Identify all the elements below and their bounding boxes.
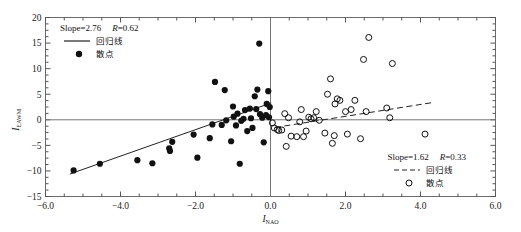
legend-stats-line: Slope=1.62 R=0.33 xyxy=(388,152,467,162)
filled-scatter-point xyxy=(169,139,175,145)
filled-scatter-point xyxy=(97,161,103,167)
filled-scatter-point xyxy=(234,111,240,117)
filled-scatter-point xyxy=(261,139,267,145)
y-tick-label: −15 xyxy=(27,192,42,202)
filled-scatter-point xyxy=(134,157,140,163)
x-tick-label: 0.0 xyxy=(265,201,277,211)
filled-scatter-point xyxy=(254,87,260,93)
filled-scatter-point xyxy=(253,106,259,112)
filled-scatter-point xyxy=(71,167,77,173)
legend-marker-swatch xyxy=(76,51,82,57)
filled-scatter-point xyxy=(265,88,271,94)
filled-scatter-point xyxy=(252,93,258,99)
filled-scatter-point xyxy=(230,103,236,109)
y-tick-label: 0 xyxy=(37,115,42,125)
y-tick-label: −5 xyxy=(31,141,41,151)
filled-scatter-point xyxy=(228,138,234,144)
filled-scatter-point xyxy=(209,121,215,127)
filled-scatter-point xyxy=(256,40,262,46)
y-tick-label: −10 xyxy=(27,166,42,176)
filled-scatter-point xyxy=(249,125,255,131)
filled-scatter-point xyxy=(248,115,254,121)
filled-scatter-point xyxy=(212,79,218,85)
filled-scatter-point xyxy=(223,117,229,123)
filled-scatter-point xyxy=(222,87,228,93)
legend-point-label: 散点 xyxy=(426,178,444,188)
filled-scatter-point xyxy=(191,132,197,138)
x-tick-label: −6.0 xyxy=(37,201,54,211)
y-tick-label: 10 xyxy=(32,64,42,74)
legend-line-label: 回归线 xyxy=(426,165,453,175)
filled-scatter-point xyxy=(219,122,225,128)
y-tick-label: 15 xyxy=(32,38,42,48)
legend-point-label: 散点 xyxy=(96,49,114,59)
legend-stats-line: Slope=2.76 R=0.62 xyxy=(60,23,138,33)
filled-scatter-point xyxy=(207,135,213,141)
x-tick-label: −4.0 xyxy=(112,201,129,211)
filled-scatter-point xyxy=(149,160,155,166)
legend-line-label: 回归线 xyxy=(96,36,123,46)
x-tick-label: 4.0 xyxy=(415,201,427,211)
filled-scatter-point xyxy=(244,128,250,134)
filled-scatter-point xyxy=(266,114,272,120)
plot-canvas: −6.0−4.0−2.00.02.04.06.020151050−5−10−15… xyxy=(0,0,521,232)
filled-scatter-point xyxy=(237,161,243,167)
scatter-plot-figure: −6.0−4.0−2.00.02.04.06.020151050−5−10−15… xyxy=(0,0,521,232)
x-tick-label: −2.0 xyxy=(187,201,204,211)
filled-scatter-point xyxy=(233,122,239,128)
y-tick-label: 20 xyxy=(32,13,42,23)
x-tick-label: 2.0 xyxy=(340,201,352,211)
y-tick-label: 5 xyxy=(37,90,42,100)
filled-scatter-point xyxy=(167,148,173,154)
filled-scatter-point xyxy=(240,116,246,122)
filled-scatter-point xyxy=(194,155,200,161)
x-tick-label: 6.0 xyxy=(490,201,502,211)
filled-scatter-point xyxy=(267,104,273,110)
filled-scatter-point xyxy=(247,105,253,111)
